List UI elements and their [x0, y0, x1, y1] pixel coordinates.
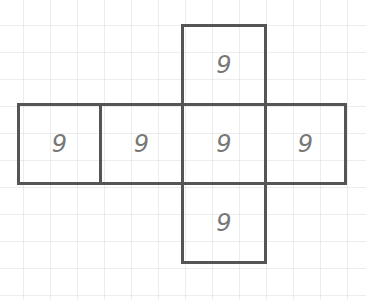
- face-label: 9: [216, 211, 231, 235]
- grid-paper-canvas: 9 9 9 9 9 9: [0, 0, 366, 300]
- cube-net-face-top: 9: [181, 24, 267, 106]
- cube-net-face-left: 9: [99, 103, 184, 185]
- face-label: 9: [134, 132, 149, 156]
- cube-net-face-left-end: 9: [17, 103, 102, 185]
- face-label: 9: [52, 132, 67, 156]
- cube-net-face-right: 9: [264, 103, 347, 185]
- face-label: 9: [298, 132, 313, 156]
- face-label: 9: [216, 53, 231, 77]
- face-label: 9: [216, 132, 231, 156]
- cube-net-face-bottom: 9: [181, 182, 267, 264]
- cube-net-face-center: 9: [181, 103, 267, 185]
